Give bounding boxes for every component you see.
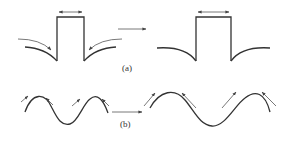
surface-right <box>84 47 116 61</box>
panel-b-before <box>21 96 109 124</box>
surface-left <box>25 47 57 61</box>
surface-right-smoothed <box>231 48 270 61</box>
panel-b-label: (b) <box>120 119 131 129</box>
protrusion-outline <box>57 17 84 61</box>
crest-arrow-7-icon <box>222 92 236 108</box>
sinusoid-small <box>25 96 108 124</box>
diagram-canvas: (a) (b) <box>0 0 288 146</box>
panel-b-after <box>144 92 276 126</box>
panel-a-after <box>157 12 270 61</box>
sinusoid-large <box>150 92 270 126</box>
surface-left-smoothed <box>157 48 196 61</box>
crest-arrow-5-icon <box>144 93 155 106</box>
panel-a-label: (a) <box>122 63 132 73</box>
crest-arrow-1-icon <box>21 96 28 102</box>
panel-a-before <box>18 12 122 61</box>
protrusion-outline-smoothed <box>196 17 231 61</box>
crest-arrow-3-icon <box>72 99 80 106</box>
